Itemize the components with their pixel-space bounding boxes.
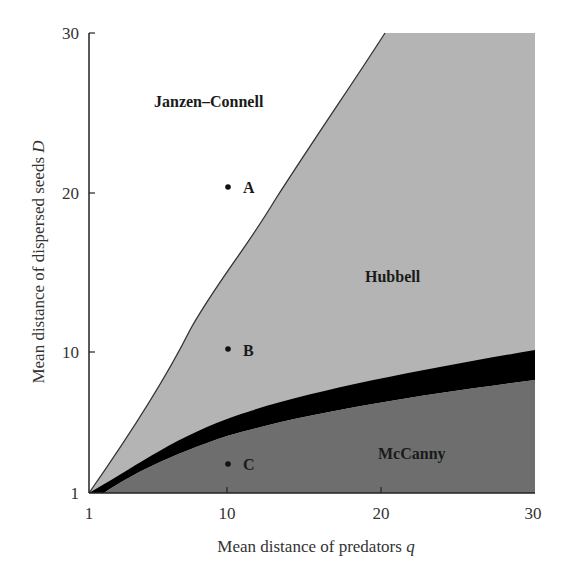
phase-diagram-chart: 30 20 10 1 1 10 20 30 Mean distance of p… (0, 0, 565, 579)
y-axis-variable: D (29, 140, 48, 154)
janzen-connell-label: Janzen–Connell (154, 93, 264, 110)
point-c-marker (225, 461, 231, 467)
y-tick-label-20: 20 (62, 184, 79, 203)
y-axis-title: Mean distance of dispersed seeds D (29, 140, 48, 384)
x-tick-label-1: 1 (85, 504, 94, 523)
point-a-marker (225, 184, 231, 190)
x-tick-label-10: 10 (219, 504, 236, 523)
x-axis-variable: q (406, 537, 415, 556)
point-a-label: A (243, 179, 255, 196)
hubbell-label: Hubbell (365, 268, 421, 285)
y-tick-label-1: 1 (71, 484, 80, 503)
point-b-label: B (243, 342, 254, 359)
y-tick-label-10: 10 (62, 343, 79, 362)
point-b-marker (225, 346, 231, 352)
x-axis-title-text: Mean distance of predators (217, 537, 406, 556)
x-tick-label-20: 20 (373, 504, 390, 523)
point-c-label: C (243, 456, 255, 473)
y-axis-title-text: Mean distance of dispersed seeds (29, 153, 48, 384)
mccanny-label: McCanny (378, 445, 446, 463)
x-tick-label-30: 30 (525, 504, 542, 523)
x-axis-title: Mean distance of predators q (217, 537, 415, 556)
y-tick-label-30: 30 (62, 24, 79, 43)
